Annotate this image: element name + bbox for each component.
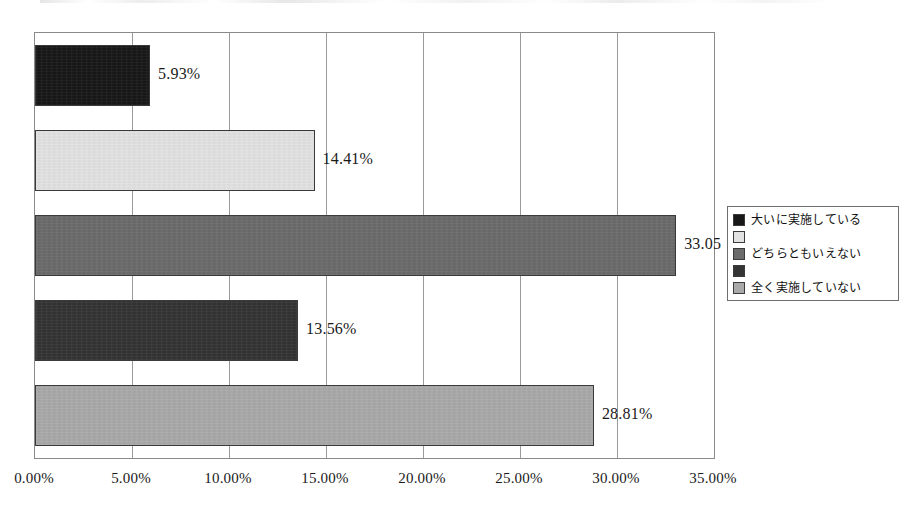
- bar-value-label: 33.05: [684, 235, 721, 253]
- x-tick-label: 30.00%: [592, 470, 639, 487]
- legend-swatch-icon: [733, 265, 745, 277]
- chart-legend: 大いに実施しているどちらともいえない全く実施していない: [727, 206, 899, 301]
- bar-texture: [36, 46, 149, 105]
- bar-value-label: 5.93%: [158, 65, 200, 83]
- legend-swatch-icon: [733, 214, 745, 226]
- x-tick-label: 25.00%: [495, 470, 542, 487]
- bar-texture: [36, 301, 297, 360]
- x-tick-label: 35.00%: [689, 470, 736, 487]
- bar-chart: 0.00%5.00%10.00%15.00%20.00%25.00%30.00%…: [0, 0, 910, 524]
- bar-texture: [36, 216, 675, 275]
- bar-value-label: 14.41%: [323, 150, 374, 168]
- bar: [35, 215, 676, 276]
- plot-area: [34, 32, 715, 459]
- x-tick-label: 10.00%: [204, 470, 251, 487]
- legend-swatch-icon: [733, 231, 745, 243]
- bar-texture: [36, 386, 593, 445]
- legend-item-label: 全く実施していない: [751, 282, 862, 294]
- scan-artifact: [40, 0, 830, 3]
- x-tick-label: 5.00%: [111, 470, 151, 487]
- legend-item-label: どちらともいえない: [751, 248, 862, 260]
- legend-swatch-icon: [733, 282, 745, 294]
- bar-value-label: 13.56%: [306, 320, 357, 338]
- bar: [35, 385, 594, 446]
- bar: [35, 300, 298, 361]
- x-tick-label: 15.00%: [301, 470, 348, 487]
- bar-texture: [36, 131, 314, 190]
- legend-item: 全く実施していない: [733, 279, 893, 296]
- legend-item-label: 大いに実施している: [751, 214, 862, 226]
- legend-swatch-icon: [733, 248, 745, 260]
- legend-item: 大いに実施している: [733, 211, 893, 228]
- x-tick-label: 0.00%: [14, 470, 54, 487]
- bar: [35, 130, 315, 191]
- legend-item: [733, 262, 893, 279]
- bar-value-label: 28.81%: [602, 405, 653, 423]
- legend-item: [733, 228, 893, 245]
- legend-item: どちらともいえない: [733, 245, 893, 262]
- bar: [35, 45, 150, 106]
- x-tick-label: 20.00%: [398, 470, 445, 487]
